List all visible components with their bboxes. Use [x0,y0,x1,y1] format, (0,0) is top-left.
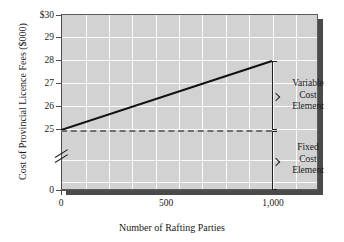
variable-cost-line-1: Variable [278,78,338,90]
y-tick-label: 29 [45,32,55,42]
x-tick-label: 0 [43,198,79,209]
variable-cost-line-3: Element [278,101,338,113]
y-axis-title: Cost of Provincial Licence Fees ($000) [17,7,28,197]
chart-figure: $30 29 28 27 26 25 0 0 500 1,000 Variabl… [0,0,344,242]
x-tick-label: 1,000 [253,198,293,209]
variable-cost-annotation: Variable Cost Element [278,78,338,113]
fixed-cost-line-2: Cost [278,154,338,166]
fixed-cost-line-3: Element [278,165,338,177]
y-tick-label: 26 [45,101,55,111]
y-tick-label: 27 [45,78,55,88]
variable-cost-line-2: Cost [278,90,338,102]
x-axis-title: Number of Rafting Parties [0,222,344,233]
y-tick-label: 0 [49,185,54,195]
fixed-cost-dashed-line [61,130,272,132]
fixed-cost-line-1: Fixed [278,142,338,154]
fixed-cost-annotation: Fixed Cost Element [278,142,338,177]
y-tick-label: $30 [40,10,54,20]
y-tick-label: 28 [45,55,55,65]
x-tick-label: 500 [148,198,184,209]
y-tick-label: 25 [45,124,55,134]
